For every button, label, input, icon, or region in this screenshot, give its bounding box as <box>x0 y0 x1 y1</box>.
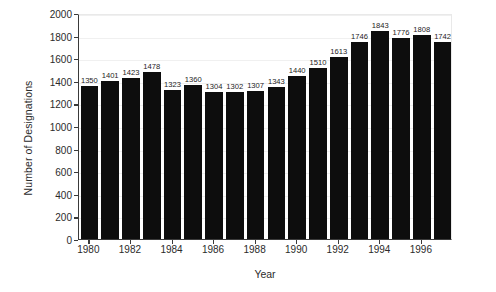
bar-slot: 1323 <box>162 13 183 239</box>
bar-slot: 1304 <box>204 13 225 239</box>
y-tick-mark <box>74 172 78 173</box>
bar-slot: 1350 <box>79 13 100 239</box>
x-tick-label: 1996 <box>397 244 445 255</box>
bar[interactable]: 1423 <box>122 78 140 239</box>
y-tick-label: 200 <box>28 212 72 223</box>
bar-value-label: 1350 <box>81 76 98 85</box>
y-tick-label: 600 <box>28 167 72 178</box>
y-tick-label: 1800 <box>28 31 72 42</box>
bar-slot: 1510 <box>308 13 329 239</box>
bar-slot: 1423 <box>121 13 142 239</box>
x-axis-title: Year <box>78 268 452 280</box>
bar-value-label: 1746 <box>351 32 368 41</box>
bar-slot: 1776 <box>391 13 412 239</box>
bar[interactable]: 1478 <box>143 72 161 239</box>
bar[interactable]: 1401 <box>101 81 119 239</box>
bar-chart: Number of Designations 13501401142314781… <box>0 0 496 292</box>
bar-value-label: 1423 <box>122 68 139 77</box>
bar-slot: 1742 <box>432 13 453 239</box>
y-tick-mark <box>74 217 78 218</box>
bar[interactable]: 1304 <box>205 92 223 239</box>
bar-slot: 1343 <box>266 13 287 239</box>
bar-value-label: 1401 <box>102 71 119 80</box>
y-tick-mark <box>74 37 78 38</box>
y-tick-label: 2000 <box>28 9 72 20</box>
bar-slot: 1440 <box>287 13 308 239</box>
y-tick-mark <box>74 82 78 83</box>
y-tick-label: 800 <box>28 144 72 155</box>
y-tick-label: 1600 <box>28 54 72 65</box>
bar[interactable]: 1510 <box>309 68 327 239</box>
bar-value-label: 1613 <box>330 47 347 56</box>
bar-slot: 1307 <box>245 13 266 239</box>
bar[interactable]: 1360 <box>184 85 202 239</box>
bar-value-label: 1808 <box>413 25 430 34</box>
bar[interactable]: 1776 <box>392 38 410 239</box>
bar[interactable]: 1323 <box>164 90 182 239</box>
bar-value-label: 1478 <box>143 62 160 71</box>
bar[interactable]: 1343 <box>268 87 286 239</box>
bar-value-label: 1510 <box>309 58 326 67</box>
bar-slot: 1360 <box>183 13 204 239</box>
bar-value-label: 1742 <box>434 32 451 41</box>
y-tick-mark <box>74 150 78 151</box>
bar-value-label: 1302 <box>226 82 243 91</box>
bar-series: 1350140114231478132313601304130213071343… <box>79 15 451 239</box>
y-tick-label: 1200 <box>28 99 72 110</box>
bar[interactable]: 1746 <box>351 42 369 239</box>
y-tick-label: 1000 <box>28 122 72 133</box>
bar-slot: 1401 <box>100 13 121 239</box>
bar-slot: 1746 <box>349 13 370 239</box>
y-tick-mark <box>74 195 78 196</box>
bar[interactable]: 1742 <box>434 42 452 239</box>
bar-value-label: 1304 <box>206 82 223 91</box>
y-tick-mark <box>74 127 78 128</box>
bar[interactable]: 1843 <box>371 31 389 239</box>
bar-slot: 1613 <box>328 13 349 239</box>
plot-area: 1350140114231478132313601304130213071343… <box>78 14 452 240</box>
y-tick-label: 400 <box>28 189 72 200</box>
bar[interactable]: 1440 <box>288 76 306 239</box>
bar-value-label: 1323 <box>164 80 181 89</box>
bar-slot: 1302 <box>224 13 245 239</box>
bar-value-label: 1360 <box>185 75 202 84</box>
y-tick-mark <box>74 104 78 105</box>
y-tick-mark <box>74 14 78 15</box>
bar-slot: 1808 <box>411 13 432 239</box>
y-tick-label: 1400 <box>28 76 72 87</box>
bar-value-label: 1307 <box>247 81 264 90</box>
y-axis-title: Number of Designations <box>22 38 34 238</box>
bar-value-label: 1776 <box>393 28 410 37</box>
bar[interactable]: 1613 <box>330 57 348 239</box>
bar-slot: 1843 <box>370 13 391 239</box>
y-tick-mark <box>74 59 78 60</box>
bar[interactable]: 1808 <box>413 35 431 239</box>
bar[interactable]: 1307 <box>247 91 265 239</box>
bar-value-label: 1843 <box>372 21 389 30</box>
bar-value-label: 1343 <box>268 77 285 86</box>
bar-value-label: 1440 <box>289 66 306 75</box>
bar-slot: 1478 <box>141 13 162 239</box>
x-axis-ticks: 198019821984198619881990199219941996 <box>78 240 452 266</box>
bar[interactable]: 1350 <box>81 86 99 239</box>
bar[interactable]: 1302 <box>226 92 244 239</box>
